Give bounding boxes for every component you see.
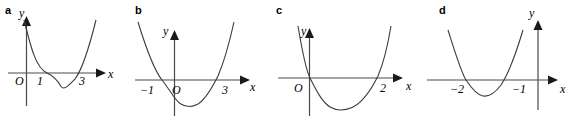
panel-c-graph: [270, 0, 415, 123]
x-tick-label-b-2: 3: [222, 84, 228, 96]
figure-container: a y x O 1 3 b y x O −1 3: [0, 0, 571, 123]
x-tick-label-c-1: 2: [380, 82, 386, 94]
x-axis-arrow-icon: [240, 76, 250, 85]
x-tick-label-d-1: −2: [450, 83, 464, 95]
y-axis-arrow-icon: [170, 30, 179, 40]
panel-d: d y x −2 −1: [415, 0, 571, 123]
x-axis-arrow-icon: [96, 69, 106, 78]
x-tick-label-a-2: 3: [79, 75, 85, 87]
panel-letter-b: b: [135, 5, 142, 16]
x-axis-label-a: x: [108, 68, 113, 80]
x-axis-label-d: x: [560, 83, 565, 95]
parabola-curve-a: [24, 20, 96, 88]
origin-label-c: O: [294, 82, 303, 94]
x-tick-label-d-2: −1: [512, 83, 526, 95]
origin-label-b: O: [172, 84, 181, 96]
panel-a: a y x O 1 3: [0, 0, 130, 123]
panel-letter-d: d: [439, 5, 446, 16]
panel-b: b y x O −1 3: [130, 0, 270, 123]
y-axis-arrow-icon: [305, 28, 314, 38]
parabola-curve-c: [298, 26, 391, 110]
panel-d-graph: [415, 0, 571, 123]
y-axis-label-d: y: [529, 7, 534, 19]
x-axis-arrow-icon: [548, 76, 558, 85]
panel-letter-c: c: [276, 5, 282, 16]
x-axis-label-c: x: [406, 80, 411, 92]
x-axis-arrow-icon: [393, 74, 403, 83]
panel-b-graph: [130, 0, 270, 123]
y-axis-label-c: y: [301, 25, 306, 37]
y-axis-label-a: y: [19, 7, 24, 19]
y-axis-arrow-icon: [534, 20, 543, 30]
panel-letter-a: a: [5, 5, 11, 16]
y-axis-label-b: y: [163, 25, 168, 37]
x-axis-label-b: x: [250, 81, 255, 93]
origin-label-a: O: [15, 75, 24, 87]
x-tick-label-b-1: −1: [140, 84, 154, 96]
panel-c: c y x O 2: [270, 0, 415, 123]
x-tick-label-a-1: 1: [37, 75, 43, 87]
